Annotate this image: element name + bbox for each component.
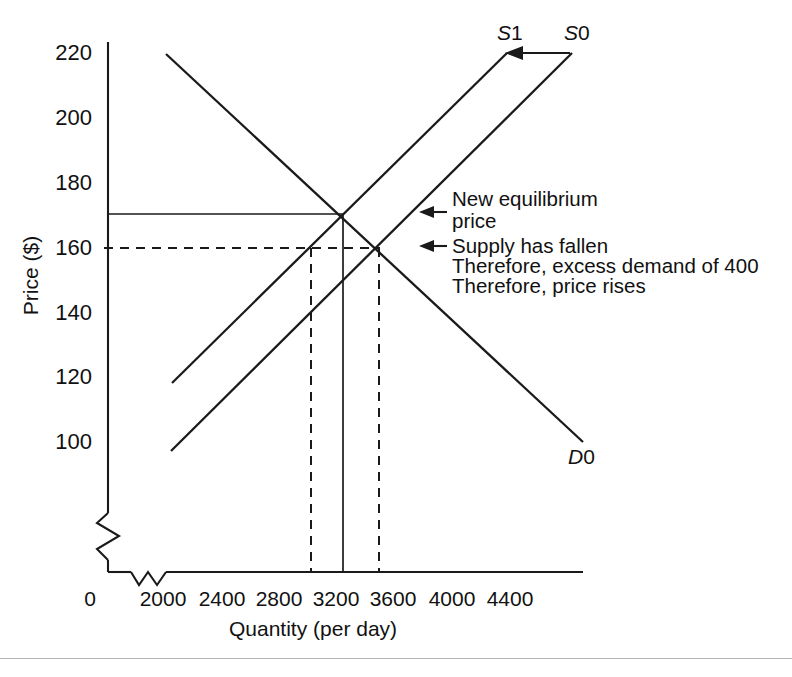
x-axis-title: Quantity (per day) — [229, 618, 397, 639]
y-axis-title: Price ($) — [20, 216, 41, 336]
annotation-new-equilibrium-line2: price — [452, 211, 496, 232]
annotation-arrow-new-equilibrium — [419, 206, 447, 218]
y-tick-160: 160 — [36, 237, 92, 259]
y-tick-140: 140 — [36, 302, 92, 324]
annotation-arrow-supply-fallen — [419, 240, 447, 252]
y-tick-100: 100 — [36, 431, 92, 453]
curve-label-d0: D0 — [568, 446, 595, 467]
bottom-divider — [0, 658, 792, 659]
y-tick-180: 180 — [36, 172, 92, 194]
supply-shift-arrow — [505, 46, 570, 60]
y-tick-200: 200 — [36, 107, 92, 129]
x-tick-0: 0 — [55, 588, 125, 609]
annotation-new-equilibrium-line1: New equilibrium — [452, 189, 598, 210]
annotation-price-rises: Therefore, price rises — [452, 276, 646, 297]
curve-label-s0: S0 — [564, 22, 590, 43]
x-tick-4400: 4400 — [475, 588, 545, 609]
y-tick-220: 220 — [36, 42, 92, 64]
chart-svg — [0, 0, 792, 677]
curve-label-s1: S1 — [497, 22, 523, 43]
y-axis — [97, 42, 119, 572]
y-tick-120: 120 — [36, 366, 92, 388]
x-axis — [108, 572, 583, 585]
figure-canvas: 220 200 180 160 140 120 100 Price ($) 0 … — [0, 0, 792, 677]
